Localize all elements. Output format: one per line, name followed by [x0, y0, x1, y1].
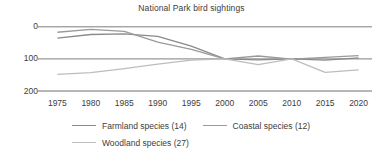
chart-title: National Park bird sightings — [0, 3, 383, 13]
legend-item-farmland[interactable]: Farmland species (14) — [72, 121, 187, 131]
series-lines — [57, 29, 358, 74]
y-axis-tick-label: 200 — [8, 86, 38, 96]
x-axis-tick-label: 1975 — [40, 98, 74, 108]
y-axis-tick-label: 0 — [8, 21, 38, 31]
legend-swatch-icon — [203, 125, 227, 126]
x-axis-tick-label: 2005 — [241, 98, 275, 108]
plot-svg — [0, 18, 383, 98]
x-axis-tick-label: 2020 — [342, 98, 376, 108]
series-line-2 — [57, 59, 358, 74]
legend-label: Woodland species (27) — [102, 138, 189, 148]
y-axis-tick-label: 100 — [8, 53, 38, 63]
x-axis-tick-label: 1995 — [174, 98, 208, 108]
legend-swatch-icon — [72, 142, 96, 143]
chart-container: National Park bird sightings 2001000 197… — [0, 0, 383, 166]
chart-legend: Farmland species (14) Coastal species (1… — [0, 117, 383, 151]
legend-label: Farmland species (14) — [102, 121, 187, 131]
legend-item-coastal[interactable]: Coastal species (12) — [203, 121, 310, 131]
x-axis-tick-label: 2015 — [308, 98, 342, 108]
legend-row: Farmland species (14) Coastal species (1… — [0, 117, 383, 134]
legend-swatch-icon — [72, 125, 96, 126]
gridlines — [38, 27, 372, 91]
legend-item-woodland[interactable]: Woodland species (27) — [72, 138, 189, 148]
x-axis-tick-label: 2010 — [275, 98, 309, 108]
legend-label: Coastal species (12) — [233, 121, 310, 131]
series-line-0 — [57, 34, 358, 60]
x-axis-tick-label: 1990 — [141, 98, 175, 108]
x-axis-tick-label: 1980 — [74, 98, 108, 108]
legend-row: Woodland species (27) — [0, 134, 383, 151]
x-axis-tick-label: 1985 — [107, 98, 141, 108]
x-axis-tick-label: 2000 — [208, 98, 242, 108]
plot-area — [0, 18, 383, 98]
